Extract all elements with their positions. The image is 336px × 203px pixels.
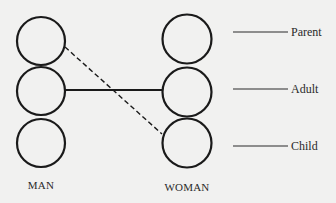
woman-label: WOMAN xyxy=(165,180,210,194)
woman-ego-states xyxy=(163,15,212,168)
parent-label: Parent xyxy=(291,25,322,39)
woman-adult-circle xyxy=(163,68,212,117)
man-parent-circle xyxy=(17,17,65,65)
man-adult-circle xyxy=(17,67,65,115)
adult-label: Adult xyxy=(291,82,318,96)
diagram-graphics xyxy=(0,0,336,203)
woman-parent-circle xyxy=(163,15,212,64)
man-child-circle xyxy=(17,119,65,167)
woman-child-circle xyxy=(163,119,212,168)
transactional-analysis-diagram: Parent Adult Child MAN WOMAN xyxy=(0,0,336,203)
ego-state-legend-lines xyxy=(233,32,288,146)
man-ego-states xyxy=(17,17,65,167)
man-label: MAN xyxy=(28,178,54,192)
child-label: Child xyxy=(291,139,318,153)
